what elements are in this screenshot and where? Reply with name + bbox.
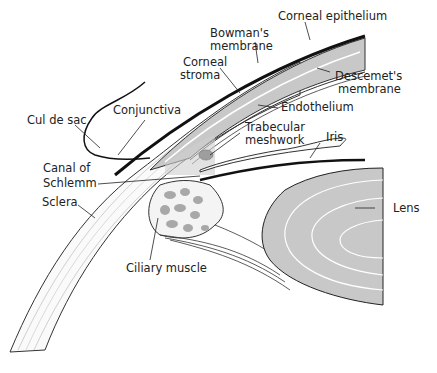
label-trabecular-meshwork-2: meshwork <box>245 133 305 147</box>
label-canal-of-schlemm-1: Canal of <box>43 161 91 175</box>
label-descemets-membrane-2: membrane <box>338 82 401 96</box>
label-cul-de-sac: Cul de sac <box>27 113 87 127</box>
label-ciliary-muscle: Ciliary muscle <box>126 261 207 275</box>
eye-anatomy-diagram: Corneal epithelium Bowman's membrane Cor… <box>0 0 437 373</box>
label-conjunctiva: Conjunctiva <box>113 103 181 117</box>
label-lens: Lens <box>393 201 420 215</box>
label-corneal-stroma-2: stroma <box>180 68 220 82</box>
label-bowmans-membrane-2: membrane <box>210 39 273 53</box>
label-corneal-stroma-1: Corneal <box>183 55 227 69</box>
label-descemets-membrane-1: Descemet's <box>335 69 402 83</box>
label-corneal-epithelium: Corneal epithelium <box>278 9 387 23</box>
label-trabecular-meshwork-1: Trabecular <box>244 120 305 134</box>
conjunctiva-line <box>84 82 150 159</box>
lens-shape <box>262 168 383 305</box>
label-endothelium: Endothelium <box>281 100 354 114</box>
label-iris: Iris <box>326 130 343 144</box>
label-canal-of-schlemm-2: Schlemm <box>43 176 97 190</box>
label-bowmans-membrane-1: Bowman's <box>210 26 269 40</box>
label-sclera: Sclera <box>42 195 78 209</box>
